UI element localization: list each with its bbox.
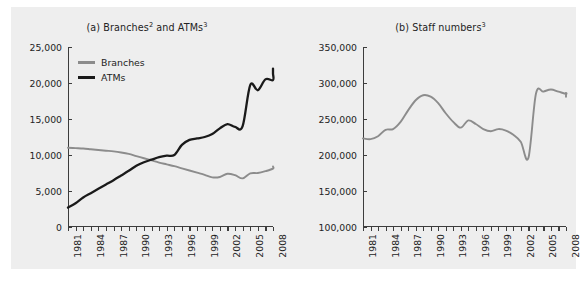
y-tick-label: 250,000 [319, 114, 357, 125]
x-tick-label: 1996 [480, 234, 491, 258]
panel-a-title: (a) Branches2 and ATMs3 [0, 22, 294, 33]
panel-b-title: (b) Staff numbers3 [294, 22, 587, 33]
panel-a-title-superscript-2: 3 [203, 21, 207, 29]
figure-root: (a) Branches2 and ATMs3 05,00010,00015,0… [0, 0, 587, 282]
x-tick-mark [566, 227, 567, 231]
x-tick-mark [152, 227, 153, 231]
x-tick-mark [416, 227, 417, 231]
x-tick-mark [378, 227, 379, 231]
x-tick-mark [174, 227, 175, 231]
y-tick-label: 300,000 [319, 78, 357, 89]
x-tick-mark [498, 227, 499, 231]
x-tick-mark [461, 227, 462, 231]
x-tick-mark [129, 227, 130, 231]
y-tick-label: 200,000 [319, 150, 357, 161]
x-tick-label: 2008 [570, 234, 581, 258]
x-tick-mark [91, 227, 92, 231]
x-tick-label: 1990 [435, 234, 446, 258]
y-tick-label: 350,000 [319, 42, 357, 53]
x-tick-label: 2005 [254, 234, 265, 258]
x-tick-mark [189, 227, 190, 231]
x-tick-mark [197, 227, 198, 231]
x-tick-label: 2002 [231, 234, 242, 258]
x-tick-mark [182, 227, 183, 231]
x-tick-mark [227, 227, 228, 231]
plot-area-b: 100,000150,000200,000250,000300,000350,0… [363, 47, 566, 227]
legend-a: Branches ATMs [78, 55, 145, 85]
y-tick-label: 150,000 [319, 186, 357, 197]
x-tick-label: 2008 [277, 234, 288, 258]
x-tick-label: 1987 [412, 234, 423, 258]
panel-a-title-text-mid: and ATMs [153, 22, 203, 33]
x-tick-label: 2005 [547, 234, 558, 258]
x-tick-mark [408, 227, 409, 231]
x-tick-mark [205, 227, 206, 231]
x-tick-label: 1993 [163, 234, 174, 258]
panel-a-title-text: (a) Branches [87, 22, 149, 33]
x-tick-label: 1999 [209, 234, 220, 258]
x-tick-label: 1993 [457, 234, 468, 258]
x-tick-mark [401, 227, 402, 231]
x-tick-mark [144, 227, 145, 231]
x-tick-label: 1981 [367, 234, 378, 258]
legend-swatch-atms-icon [78, 76, 95, 79]
x-tick-mark [453, 227, 454, 231]
x-tick-mark [521, 227, 522, 231]
x-tick-mark [431, 227, 432, 231]
x-tick-mark [243, 227, 244, 231]
x-tick-mark [258, 227, 259, 231]
x-tick-mark [159, 227, 160, 231]
x-tick-mark [468, 227, 469, 231]
x-tick-mark [476, 227, 477, 231]
y-tick-label: 100,000 [319, 222, 357, 233]
x-tick-mark [446, 227, 447, 231]
x-tick-mark [114, 227, 115, 231]
x-tick-mark [212, 227, 213, 231]
line-series-branches [68, 148, 274, 179]
y-tick-label: 0 [56, 222, 62, 233]
legend-swatch-branches-icon [78, 61, 95, 64]
x-tick-mark [483, 227, 484, 231]
x-tick-mark [136, 227, 137, 231]
legend-item-atms: ATMs [78, 70, 145, 85]
x-tick-mark [491, 227, 492, 231]
x-tick-mark [121, 227, 122, 231]
x-tick-mark [250, 227, 251, 231]
x-tick-mark [371, 227, 372, 231]
panel-branches-and-atms: (a) Branches2 and ATMs3 05,00010,00015,0… [0, 0, 294, 282]
x-tick-mark [235, 227, 236, 231]
x-tick-label: 1987 [118, 234, 129, 258]
x-tick-mark [558, 227, 559, 231]
y-tick-label: 10,000 [29, 150, 62, 161]
x-tick-mark [386, 227, 387, 231]
x-tick-mark [363, 227, 364, 231]
x-tick-label: 2002 [525, 234, 536, 258]
legend-item-branches: Branches [78, 55, 145, 70]
line-series-staff-numbers [363, 88, 567, 159]
x-tick-mark [220, 227, 221, 231]
x-tick-label: 1996 [186, 234, 197, 258]
x-tick-mark [273, 227, 274, 231]
x-tick-label: 1981 [72, 234, 83, 258]
legend-label-branches: Branches [101, 57, 145, 68]
x-tick-mark [68, 227, 69, 231]
x-tick-mark [551, 227, 552, 231]
series-lines-b [363, 47, 566, 227]
panel-b-title-text: (b) Staff numbers [395, 22, 481, 33]
x-tick-mark [98, 227, 99, 231]
x-tick-mark [106, 227, 107, 231]
x-tick-label: 1984 [390, 234, 401, 258]
y-tick-label: 20,000 [29, 78, 62, 89]
x-tick-mark [423, 227, 424, 231]
x-tick-label: 1984 [95, 234, 106, 258]
x-tick-mark [393, 227, 394, 231]
y-tick-label: 15,000 [29, 114, 62, 125]
x-tick-mark [536, 227, 537, 231]
x-tick-mark [506, 227, 507, 231]
panel-b-title-superscript-1: 3 [482, 21, 486, 29]
x-tick-mark [543, 227, 544, 231]
x-tick-mark [265, 227, 266, 231]
x-tick-mark [83, 227, 84, 231]
x-tick-mark [528, 227, 529, 231]
y-tick-label: 25,000 [29, 42, 62, 53]
